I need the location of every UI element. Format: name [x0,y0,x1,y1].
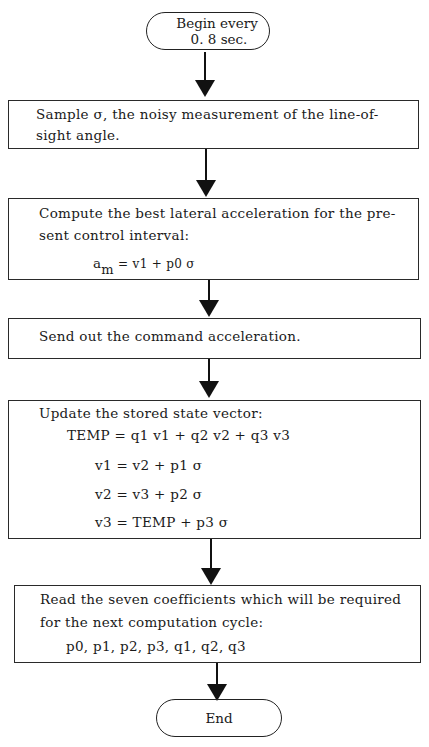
step2-line1: Compute the best lateral acceleration fo… [39,205,396,222]
step2-formula: am = v1 + p0 σ [93,255,195,278]
arrowhead-icon [201,568,221,585]
formula-rhs: = v1 + p0 σ [114,257,195,271]
step1-line2: sight angle. [36,127,120,144]
formula-subscript: m [101,262,114,277]
end-label: End [205,710,232,726]
connector-line [208,280,210,302]
step-sample-sigma: Sample σ, the noisy measurement of the l… [8,100,419,149]
step2-line2: sent control interval: [39,227,189,244]
step-update-state: Update the stored state vector: TEMP = q… [8,400,421,539]
arrowhead-icon [199,381,219,398]
step4-eq-v1: v1 = v2 + p1 σ [95,457,202,474]
step-send-command: Send out the command acceleration. [8,318,421,359]
step4-eq-temp: TEMP = q1 v1 + q2 v2 + q3 v3 [67,427,290,444]
arrowhead-icon [196,180,216,197]
start-label-line1: Begin every [147,15,269,31]
connector-line [204,52,206,82]
step4-eq-v3: v3 = TEMP + p3 σ [95,514,228,531]
connector-line [205,149,207,183]
step1-line1: Sample σ, the noisy measurement of the l… [36,106,379,123]
connector-line [208,359,210,383]
start-terminal: Begin every 0. 8 sec. [146,12,270,50]
arrowhead-icon [199,300,219,317]
arrowhead-icon [195,80,215,97]
end-terminal: End [156,699,282,737]
step4-line1: Update the stored state vector: [39,405,263,422]
step5-line3: p0, p1, p2, p3, q1, q2, q3 [66,638,246,655]
step-read-coefficients: Read the seven coefficients which will b… [14,585,421,663]
step5-line2: for the next computation cycle: [40,614,263,631]
start-label-line2: 0. 8 sec. [147,31,269,47]
step3-line1: Send out the command acceleration. [39,328,301,345]
step5-line1: Read the seven coefficients which will b… [40,591,401,608]
step4-eq-v2: v2 = v3 + p2 σ [95,486,202,503]
step-compute-acceleration: Compute the best lateral acceleration fo… [8,198,419,280]
